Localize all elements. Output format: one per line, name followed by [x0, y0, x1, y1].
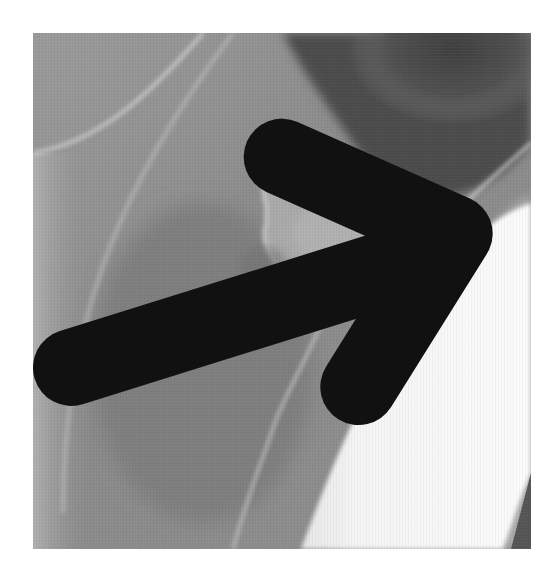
page: [0, 0, 552, 576]
radiograph-image: [33, 33, 531, 549]
arrow-right-icon: [33, 33, 531, 549]
